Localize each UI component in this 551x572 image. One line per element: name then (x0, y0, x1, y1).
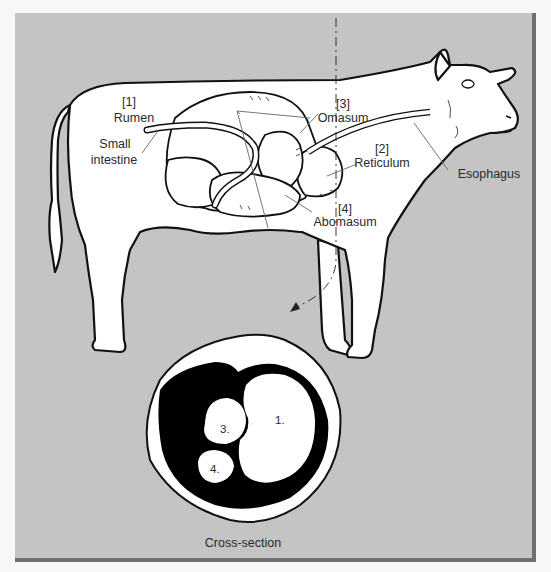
compartment-label-3: 3. (220, 423, 230, 435)
arrow-icon (290, 302, 300, 312)
esophagus-label: Esophagus (458, 167, 521, 181)
rumen-label: Rumen (114, 111, 154, 125)
compartment-label-1: 1. (275, 414, 285, 426)
abomasum-number: [4] (338, 202, 352, 216)
omasum-label: Omasum (318, 111, 369, 125)
cross-section-caption: Cross-section (205, 536, 281, 550)
reticulum-label: Reticulum (354, 156, 410, 170)
reticulum-organ (297, 147, 342, 197)
small-intestine-label-line1: Small (99, 137, 130, 151)
eye-icon (462, 80, 474, 88)
cow-stomach-diagram: [1] Rumen Small intestine [3] Omasum [2]… (0, 0, 551, 572)
small-intestine-label-line2: intestine (91, 153, 138, 167)
cross-section: 1. 3. 4. (147, 335, 341, 522)
abomasum-label: Abomasum (313, 215, 376, 229)
omasum-number: [3] (336, 97, 350, 111)
compartment-label-4: 4. (210, 463, 220, 475)
reticulum-number: [2] (375, 142, 389, 156)
rumen-number: [1] (122, 95, 136, 109)
